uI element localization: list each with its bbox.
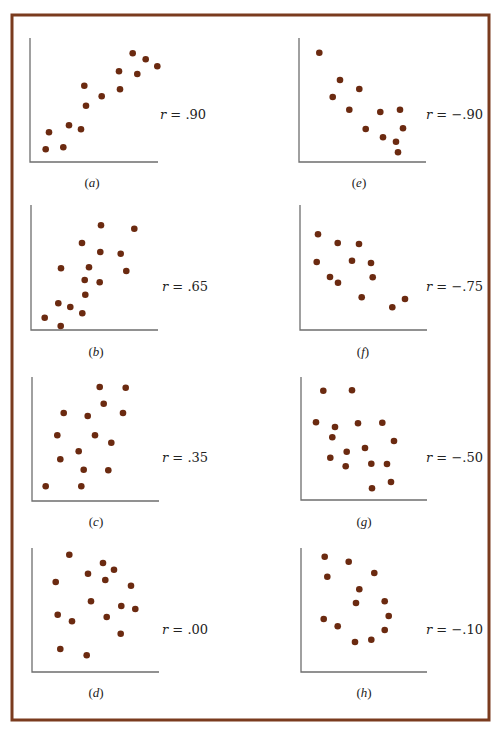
data-point bbox=[52, 579, 59, 586]
scatter-panel-f: r = −.75(f) bbox=[300, 205, 483, 359]
data-point bbox=[117, 250, 124, 257]
data-point bbox=[54, 611, 61, 618]
data-point bbox=[353, 600, 360, 607]
data-point bbox=[102, 577, 109, 584]
data-point bbox=[388, 479, 395, 486]
data-point bbox=[358, 294, 365, 301]
scatter-panel-h: r = −.10(h) bbox=[301, 548, 483, 700]
correlation-label-a: r = .90 bbox=[160, 107, 206, 122]
data-point bbox=[42, 146, 49, 153]
correlation-label-h: r = −.10 bbox=[426, 622, 483, 637]
data-point bbox=[97, 249, 104, 256]
correlation-label-e: r = −.90 bbox=[426, 107, 483, 122]
data-point bbox=[129, 50, 136, 57]
data-point bbox=[111, 566, 118, 573]
data-point bbox=[380, 134, 387, 141]
data-point bbox=[384, 461, 391, 468]
data-point bbox=[42, 483, 49, 490]
data-point bbox=[313, 259, 320, 266]
data-point bbox=[381, 627, 388, 634]
scatter-panel-c: r = .35(c) bbox=[32, 377, 208, 529]
data-point bbox=[397, 106, 404, 113]
data-point bbox=[329, 434, 336, 441]
data-point bbox=[69, 618, 76, 625]
scatter-panel-e: r = −.90(e) bbox=[299, 38, 483, 190]
data-point bbox=[335, 279, 342, 286]
correlation-scatterplot-figure: r = .90(a)r = −.90(e)r = .65(b)r = −.75(… bbox=[0, 0, 493, 732]
data-point bbox=[58, 265, 65, 272]
data-point bbox=[83, 652, 90, 659]
data-point bbox=[120, 410, 127, 417]
data-point bbox=[369, 485, 376, 492]
panel-label-a: (a) bbox=[84, 175, 99, 190]
data-point bbox=[343, 448, 350, 455]
scatter-panels: r = .90(a)r = −.90(e)r = .65(b)r = −.75(… bbox=[30, 38, 483, 700]
data-point bbox=[352, 639, 359, 646]
data-point bbox=[402, 296, 409, 303]
data-point bbox=[362, 445, 369, 452]
data-point bbox=[355, 420, 362, 427]
data-point bbox=[346, 106, 353, 113]
data-point bbox=[57, 323, 64, 330]
data-point bbox=[85, 570, 92, 577]
data-point bbox=[381, 598, 388, 605]
data-point bbox=[342, 463, 349, 470]
data-point bbox=[327, 454, 334, 461]
data-point bbox=[75, 448, 82, 455]
panel-label-e: (e) bbox=[352, 175, 366, 190]
data-point bbox=[321, 553, 328, 560]
data-point bbox=[55, 300, 62, 307]
data-point bbox=[66, 551, 73, 558]
data-point bbox=[368, 460, 375, 467]
data-point bbox=[400, 125, 407, 132]
axes-b bbox=[31, 205, 158, 330]
panel-label-f: (f) bbox=[357, 344, 369, 359]
data-point bbox=[57, 646, 64, 653]
data-point bbox=[395, 149, 402, 156]
data-point bbox=[320, 387, 327, 394]
panel-label-d: (d) bbox=[88, 685, 103, 700]
data-point bbox=[123, 268, 130, 275]
data-point bbox=[391, 438, 398, 445]
data-point bbox=[66, 122, 73, 129]
data-point bbox=[81, 82, 88, 89]
axes-a bbox=[30, 38, 158, 162]
data-point bbox=[41, 314, 48, 321]
data-point bbox=[369, 274, 376, 281]
scatter-panel-a: r = .90(a) bbox=[30, 38, 206, 190]
data-point bbox=[154, 63, 161, 70]
data-point bbox=[92, 432, 99, 439]
data-point bbox=[345, 558, 352, 565]
data-point bbox=[362, 126, 369, 133]
data-point bbox=[356, 586, 363, 593]
data-point bbox=[316, 49, 323, 56]
data-point bbox=[385, 613, 392, 620]
data-point bbox=[81, 277, 88, 284]
data-point bbox=[356, 86, 363, 93]
data-point bbox=[389, 304, 396, 311]
figure-frame bbox=[12, 15, 489, 720]
data-point bbox=[128, 582, 135, 589]
axes-f bbox=[300, 205, 427, 330]
correlation-label-b: r = .65 bbox=[162, 279, 208, 294]
panel-label-h: (h) bbox=[356, 685, 371, 700]
data-point bbox=[142, 56, 149, 63]
data-point bbox=[103, 614, 110, 621]
data-point bbox=[122, 384, 129, 391]
data-point bbox=[100, 400, 107, 407]
data-point bbox=[57, 456, 64, 463]
data-point bbox=[88, 598, 95, 605]
scatter-panel-g: r = −.50(g) bbox=[301, 377, 483, 529]
data-point bbox=[368, 260, 375, 267]
data-point bbox=[86, 264, 93, 271]
data-point bbox=[117, 86, 124, 93]
data-point bbox=[334, 240, 341, 247]
data-point bbox=[329, 94, 336, 101]
data-point bbox=[349, 257, 356, 264]
data-point bbox=[131, 225, 138, 232]
correlation-label-f: r = −.75 bbox=[426, 279, 483, 294]
correlation-label-g: r = −.50 bbox=[426, 450, 483, 465]
data-point bbox=[334, 623, 341, 630]
data-point bbox=[84, 413, 91, 420]
data-point bbox=[371, 570, 378, 577]
